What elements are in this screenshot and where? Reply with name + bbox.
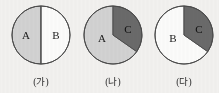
sector-label-da-C: C	[195, 23, 202, 35]
pie-diagram-figure: A B A C B C (가) (나) (다)	[0, 0, 219, 93]
sector-label-da-B: B	[169, 32, 176, 44]
sector-label-na-A: A	[98, 32, 106, 44]
caption-na: (나)	[105, 77, 120, 88]
circle-na-group: A C	[84, 6, 142, 64]
caption-da: (다)	[176, 77, 191, 88]
sector-label-ga-A: A	[22, 29, 30, 41]
sector-label-ga-B: B	[52, 29, 59, 41]
sector-label-na-C: C	[124, 23, 131, 35]
circle-da-group: B C	[155, 6, 213, 64]
figure-canvas: A B A C B C (가) (나) (다)	[0, 0, 219, 93]
caption-ga: (가)	[33, 77, 48, 88]
circle-ga-group: A B	[12, 6, 70, 64]
